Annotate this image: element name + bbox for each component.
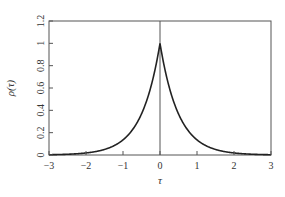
x-tick-label: 2 [232,160,237,171]
y-axis-ticks: 00.20.40.60.811.2 [35,15,53,158]
y-tick-label: 0.2 [35,126,46,139]
x-tick-label: 1 [195,160,200,171]
y-tick-label: 1.2 [35,15,46,28]
plot-frame [49,21,271,155]
y-tick-label: 1 [35,41,46,46]
x-tick-label: 3 [269,160,274,171]
y-tick-label: 0.4 [35,104,46,117]
x-tick-label: −1 [118,160,129,171]
x-tick-label: 0 [158,160,163,171]
y-tick-label: 0.6 [35,82,46,95]
y-tick-label: 0 [35,153,46,158]
x-axis-label: τ [158,174,163,186]
autocorrelation-chart: −3−2−10123 00.20.40.60.811.2 τ ρ(τ) [0,0,285,197]
y-tick-label: 0.8 [35,59,46,72]
x-tick-label: −2 [81,160,92,171]
x-tick-label: −3 [44,160,55,171]
y-axis-label: ρ(τ) [4,79,17,97]
